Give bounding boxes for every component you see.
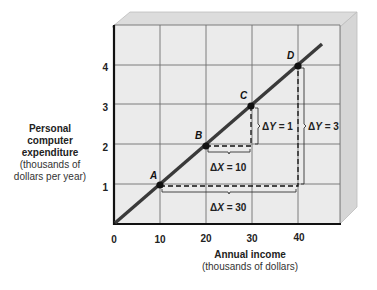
point-label-a: A [149,170,157,181]
x-title: Annual income [175,249,325,261]
y-units-line-2: dollars per year) [2,171,98,183]
point-b [202,142,209,149]
point-label-b: B [195,130,202,141]
point-d [294,62,301,69]
y-title-line-1: Personal [2,123,98,135]
y-tick-2: 2 [102,142,108,153]
annotation-dx30: ΔX = 30 [210,202,247,213]
point-a [156,181,163,188]
x-units: (thousands of dollars) [175,261,325,273]
x-tick-0: 0 [111,234,117,245]
point-c [247,102,254,109]
x-tick-40: 40 [293,232,305,243]
box-right-face [340,12,357,224]
annotation-dy3: ΔY = 3 [308,121,339,132]
point-label-d: D [287,50,294,61]
y-title-line-2: computer [2,135,98,147]
point-label-c: C [240,90,248,101]
x-tick-20: 20 [200,233,212,244]
y-axis-title: Personal computer expenditure (thousands… [2,123,98,183]
x-tick-10: 10 [154,234,166,245]
annotation-dy1: ΔY = 1 [262,121,293,132]
annotation-dx10: ΔX = 10 [210,162,247,173]
y-tick-3: 3 [102,102,108,113]
y-tick-1: 1 [102,182,108,193]
x-axis-title: Annual income (thousands of dollars) [175,249,325,273]
y-units-line-1: (thousands of [2,159,98,171]
y-tick-4: 4 [102,62,108,73]
y-title-line-3: expenditure [2,147,98,159]
x-tick-30: 30 [246,233,258,244]
